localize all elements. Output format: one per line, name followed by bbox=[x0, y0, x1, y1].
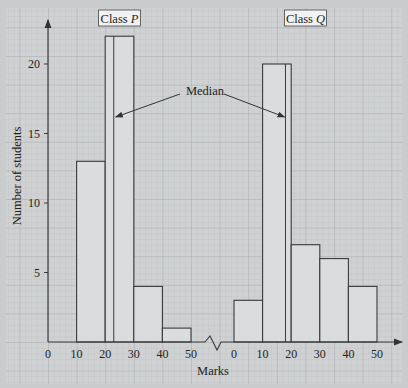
bar-class-p-30-40 bbox=[134, 286, 163, 342]
bar-class-q-0-10 bbox=[234, 300, 263, 342]
y-axis-label: Number of students bbox=[10, 127, 24, 226]
bar-class-q-20-30 bbox=[291, 245, 320, 342]
bar-class-p-10-20 bbox=[77, 161, 106, 342]
bar-class-p-40-50 bbox=[162, 328, 191, 342]
svg-text:Class Q: Class Q bbox=[286, 12, 325, 26]
bar-class-p-20-30 bbox=[105, 36, 134, 342]
median-annotation: Median bbox=[186, 84, 225, 98]
y-tick-label: 5 bbox=[34, 266, 40, 280]
x-tick-label: 20 bbox=[285, 347, 297, 361]
svg-text:Class P: Class P bbox=[101, 12, 139, 26]
x-tick-label: 40 bbox=[156, 347, 168, 361]
x-tick-label: 30 bbox=[128, 347, 140, 361]
bar-class-q-40-50 bbox=[348, 286, 377, 342]
x-axis-label: Marks bbox=[197, 364, 229, 378]
x-tick-label: 20 bbox=[99, 347, 111, 361]
x-tick-label: 50 bbox=[185, 347, 197, 361]
x-tick-label: 40 bbox=[342, 347, 354, 361]
x-tick-label: 50 bbox=[371, 347, 383, 361]
x-tick-label: 0 bbox=[45, 347, 51, 361]
histogram-chart: 01020304050Class P01020304050Class Q5101… bbox=[0, 0, 408, 388]
series-label-class-p: Class P bbox=[99, 10, 141, 26]
y-tick-label: 10 bbox=[28, 196, 40, 210]
y-tick-label: 15 bbox=[28, 127, 40, 141]
x-tick-label: 10 bbox=[257, 347, 269, 361]
chart-canvas: 01020304050Class P01020304050Class Q5101… bbox=[0, 0, 408, 388]
x-tick-label: 10 bbox=[71, 347, 83, 361]
series-label-class-q: Class Q bbox=[285, 10, 327, 26]
x-tick-label: 0 bbox=[231, 347, 237, 361]
bar-class-q-30-40 bbox=[320, 259, 349, 342]
y-tick-label: 20 bbox=[28, 57, 40, 71]
bar-class-q-10-20 bbox=[263, 64, 292, 342]
x-tick-label: 30 bbox=[314, 347, 326, 361]
